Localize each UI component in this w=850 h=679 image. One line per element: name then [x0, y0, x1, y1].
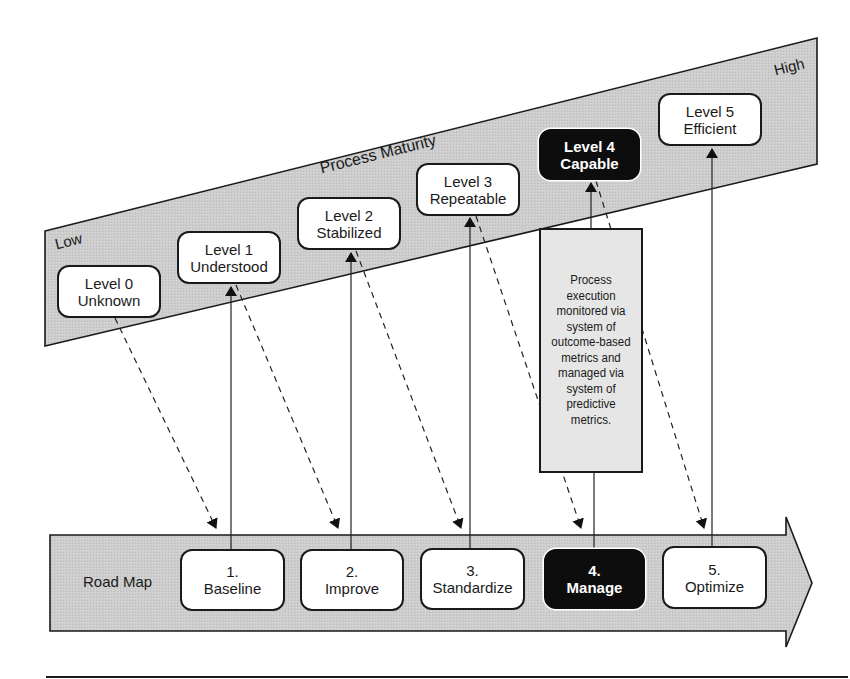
level-2-number: Level 2 [325, 207, 373, 224]
step-4-box: 4. Manage [544, 549, 645, 609]
level-2-name: Stabilized [316, 224, 381, 241]
level-5-number: Level 5 [686, 103, 734, 120]
level-0-box: Level 0 Unknown [57, 265, 161, 318]
step-5-number: 5. [708, 561, 721, 578]
level-0-name: Unknown [78, 292, 141, 309]
level-1-number: Level 1 [205, 241, 253, 258]
level-1-name: Understood [190, 258, 268, 275]
road-map-label: Road Map [83, 573, 152, 590]
description-text: Process execution monitored via system o… [549, 273, 634, 428]
step-3-box: 3. Standardize [420, 548, 525, 610]
level-4-description: Process execution monitored via system o… [539, 228, 643, 473]
level-3-box: Level 3 Repeatable [416, 163, 520, 216]
step-2-name: Improve [325, 580, 379, 597]
level-2-box: Level 2 Stabilized [297, 197, 401, 250]
level-1-box: Level 1 Understood [177, 231, 281, 284]
level-4-box: Level 4 Capable [539, 129, 640, 180]
step-1-number: 1. [226, 563, 239, 580]
level-5-name: Efficient [683, 120, 736, 137]
level-4-name: Capable [560, 155, 618, 172]
level-3-name: Repeatable [430, 190, 507, 207]
step-3-name: Standardize [432, 579, 512, 596]
level-0-number: Level 0 [85, 275, 133, 292]
level-3-number: Level 3 [444, 173, 492, 190]
step-2-number: 2. [346, 563, 359, 580]
step-2-box: 2. Improve [300, 549, 404, 611]
step-4-number: 4. [588, 562, 601, 579]
level-4-number: Level 4 [564, 138, 615, 155]
step-1-box: 1. Baseline [180, 549, 285, 611]
step-1-name: Baseline [204, 580, 262, 597]
level-5-box: Level 5 Efficient [658, 93, 762, 146]
step-3-number: 3. [466, 562, 479, 579]
step-5-name: Optimize [685, 578, 744, 595]
step-4-name: Manage [567, 579, 623, 596]
step-5-box: 5. Optimize [662, 546, 767, 609]
